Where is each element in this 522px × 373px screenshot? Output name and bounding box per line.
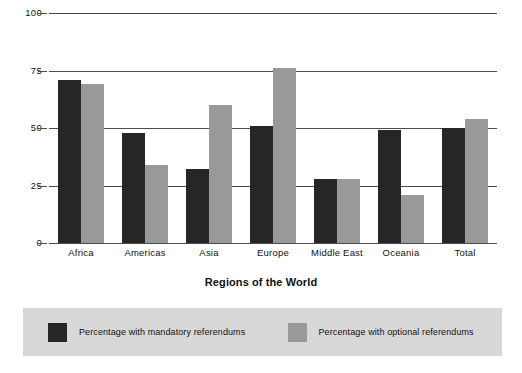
legend-label-optional: Percentage with optional referendums [319,327,474,337]
bar-americas-optional [145,165,168,243]
x-tick-label-total: Total [433,247,497,258]
tick-mark-25 [38,186,47,187]
bar-africa-optional [81,84,104,243]
bar-group-asia [177,13,241,243]
legend-swatch-mandatory-icon [48,323,67,342]
bar-groups [49,13,497,243]
bar-group-oceania [369,13,433,243]
bar-group-middle-east [305,13,369,243]
x-tick-label-oceania: Oceania [369,247,433,258]
bar-africa-mandatory [58,80,81,243]
x-tick-label-americas: Americas [113,247,177,258]
bar-oceania-optional [401,195,424,243]
y-tick-label-0: 0 [0,238,42,248]
y-tick-label-50: 50 [0,123,42,133]
bar-oceania-mandatory [378,130,401,243]
bar-total-mandatory [442,128,465,243]
bar-americas-mandatory [122,133,145,243]
chart-legend: Percentage with mandatory referendums Pe… [23,308,502,356]
x-tick-label-africa: Africa [49,247,113,258]
bar-middle-east-mandatory [314,179,337,243]
bar-group-total [433,13,497,243]
tick-mark-50 [38,128,47,129]
bar-asia-mandatory [186,169,209,243]
y-tick-label-25: 25 [0,181,42,191]
x-tick-label-asia: Asia [177,247,241,258]
x-axis-title: Regions of the World [0,276,522,288]
legend-item-mandatory: Percentage with mandatory referendums [23,323,263,342]
x-axis-labels: Africa Americas Asia Europe Middle East … [49,247,497,258]
legend-label-mandatory: Percentage with mandatory referendums [79,327,245,337]
plot-area [49,13,497,243]
bar-middle-east-optional [337,179,360,243]
bar-total-optional [465,119,488,243]
legend-item-optional: Percentage with optional referendums [263,323,503,342]
bar-group-americas [113,13,177,243]
x-tick-label-middle-east: Middle East [305,247,369,258]
y-tick-label-100: 100 [0,8,42,18]
tick-mark-0 [38,243,47,244]
x-tick-label-europe: Europe [241,247,305,258]
bar-chart: 100 75 50 25 0 [0,0,522,373]
y-tick-label-75: 75 [0,66,42,76]
bar-group-africa [49,13,113,243]
bar-asia-optional [209,105,232,243]
x-axis-baseline [49,243,497,244]
y-axis-labels: 100 75 50 25 0 [0,13,42,243]
bar-europe-optional [273,68,296,243]
tick-mark-100 [38,13,47,14]
legend-swatch-optional-icon [288,323,307,342]
bar-group-europe [241,13,305,243]
bar-europe-mandatory [250,126,273,243]
tick-mark-75 [38,71,47,72]
